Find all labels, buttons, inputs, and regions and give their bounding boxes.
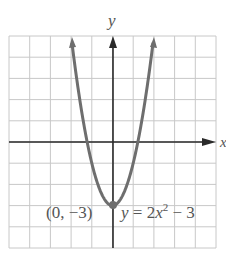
vertex-label: (0, −3) [46, 203, 92, 222]
equation-label: y = 2x2 − 3 [119, 201, 195, 222]
curve-left-arrow-icon [69, 37, 76, 48]
parabola-chart: y x (0, −3) y = 2x2 − 3 [0, 0, 226, 256]
x-axis-arrow-icon [202, 138, 216, 146]
x-axis-label: x [219, 134, 226, 150]
y-axis-label: y [106, 11, 116, 30]
vertex-point [109, 201, 117, 209]
y-axis-arrow-icon [109, 36, 117, 48]
curve-right-arrow-icon [150, 37, 157, 48]
